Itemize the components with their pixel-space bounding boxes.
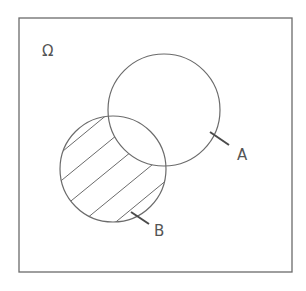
hatching-b-minus-a — [40, 104, 190, 240]
set-a-label: A — [237, 146, 248, 164]
set-b-label: B — [154, 222, 164, 240]
venn-diagram: Ω A B — [0, 0, 306, 291]
set-a-circle — [108, 54, 220, 166]
universe-label: Ω — [42, 42, 53, 60]
